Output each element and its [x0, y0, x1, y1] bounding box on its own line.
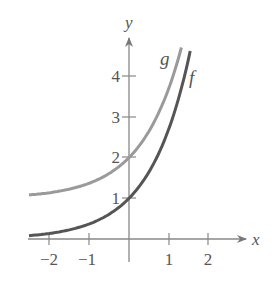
curve-f-label: f	[189, 67, 197, 88]
x-tick-label: 1	[165, 250, 174, 269]
exponential-chart: −2 −1 1 2 1 2 3 4 x y g f	[0, 0, 274, 283]
y-tick-label: 2	[112, 148, 121, 167]
y-tick-label: 4	[112, 67, 121, 86]
x-tick-label: −2	[40, 250, 58, 269]
curve-g	[29, 48, 181, 196]
y-tick-label: 3	[112, 108, 121, 127]
x-tick-label: 2	[204, 250, 213, 269]
y-tick-label: 1	[112, 189, 121, 208]
curve-g-label: g	[160, 48, 170, 69]
y-axis-label: y	[123, 13, 133, 32]
x-tick-label: −1	[78, 250, 96, 269]
x-axis-label: x	[251, 230, 260, 249]
curve-f	[29, 51, 190, 236]
